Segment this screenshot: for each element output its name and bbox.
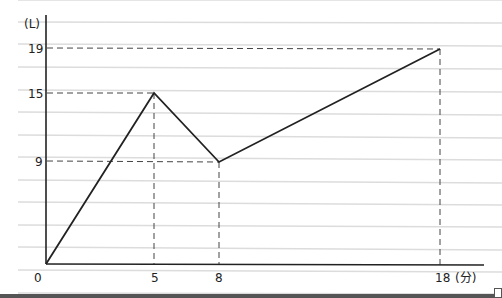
x-unit-label: (分) (455, 271, 476, 285)
ruled-lines (18, 0, 502, 294)
x-tick-0: 0 (34, 271, 42, 285)
guide-y9 (47, 161, 219, 162)
x-tick-8: 8 (215, 271, 223, 285)
axes (46, 15, 484, 265)
x-tick-5: 5 (151, 271, 159, 285)
y-unit-label: (L) (24, 17, 40, 31)
corner-square-icon (494, 288, 502, 298)
guide-lines (47, 48, 440, 265)
bottom-edge-bar (0, 294, 502, 298)
y-tick-9: 9 (35, 155, 43, 169)
y-tick-19: 19 (28, 42, 43, 56)
line-chart: (L) 19 15 9 0 5 8 18 (分) (0, 0, 502, 298)
data-line (46, 49, 440, 264)
y-tick-15: 15 (28, 87, 43, 101)
x-tick-18: 18 (435, 271, 450, 285)
x-axis (46, 264, 484, 265)
guide-y19 (47, 48, 440, 49)
